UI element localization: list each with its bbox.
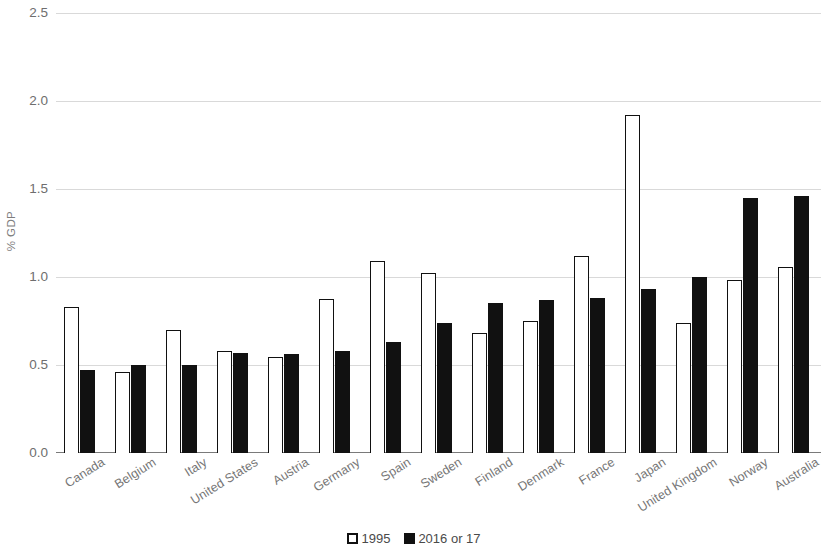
bar	[523, 321, 538, 453]
x-axis-label: Germany	[310, 455, 362, 494]
bar-group	[574, 13, 605, 453]
y-axis-tick-label: 1.5	[6, 182, 48, 196]
bar-group	[370, 13, 401, 453]
bar	[676, 323, 691, 453]
bar	[80, 370, 95, 453]
bar	[115, 372, 130, 453]
bar	[233, 353, 248, 453]
legend-label: 1995	[361, 531, 390, 546]
y-axis-tick-label: 2.5	[6, 6, 48, 20]
bar	[625, 115, 640, 453]
bar-group	[472, 13, 503, 453]
bar-group	[421, 13, 452, 453]
y-axis-title: % GDP	[0, 196, 22, 266]
bar	[421, 273, 436, 453]
bar-group	[268, 13, 299, 453]
y-axis-tick-label: 2.0	[6, 94, 48, 108]
bar	[743, 198, 758, 453]
bar	[794, 196, 809, 453]
chart-legend: 19952016 or 17	[0, 531, 828, 546]
bar-group	[778, 13, 809, 453]
bar-group	[676, 13, 707, 453]
x-axis-label: Spain	[378, 455, 413, 484]
x-axis-label: Canada	[62, 455, 107, 490]
x-axis-labels: CanadaBelgiumItalyUnited StatesAustriaGe…	[56, 455, 821, 525]
bar-group	[64, 13, 95, 453]
bar	[574, 256, 589, 453]
bar-group	[166, 13, 197, 453]
bar	[472, 333, 487, 453]
bar	[539, 300, 554, 453]
bar	[64, 307, 79, 453]
legend-item[interactable]: 1995	[347, 531, 390, 546]
bar-groups	[56, 13, 821, 453]
y-axis-title-text: % GDP	[5, 211, 17, 251]
plot-area: 0.00.51.01.52.02.5	[56, 13, 821, 453]
x-axis-label: Finland	[472, 455, 515, 489]
legend-label: 2016 or 17	[418, 531, 480, 546]
x-axis-label: Italy	[182, 455, 209, 479]
bar	[641, 289, 656, 453]
bar-group	[727, 13, 758, 453]
legend-swatch-icon	[347, 533, 358, 544]
x-axis-label: Australia	[771, 455, 820, 493]
bar	[166, 330, 181, 453]
bar	[437, 323, 452, 453]
bar	[335, 351, 350, 453]
legend-swatch-icon	[404, 533, 415, 544]
bar	[488, 303, 503, 453]
bar	[386, 342, 401, 453]
bar	[727, 280, 742, 453]
y-axis-tick-label: 0.0	[6, 446, 48, 460]
bar	[319, 299, 334, 453]
bar-group	[217, 13, 248, 453]
bar	[131, 365, 146, 453]
bar	[692, 277, 707, 453]
bar-group	[319, 13, 350, 453]
chart-container: % GDP 0.00.51.01.52.02.5 CanadaBelgiumIt…	[0, 0, 828, 555]
x-axis-label: France	[576, 455, 617, 488]
y-axis-tick-label: 0.5	[6, 358, 48, 372]
bar	[182, 365, 197, 453]
bar	[370, 261, 385, 453]
x-axis-label: Sweden	[418, 455, 464, 491]
bar-group	[625, 13, 656, 453]
bar	[217, 351, 232, 453]
bar	[284, 354, 299, 453]
x-axis-label: Norway	[726, 455, 770, 490]
bar	[778, 267, 793, 453]
bar	[268, 357, 283, 453]
x-axis-label: Belgium	[112, 455, 158, 491]
bar	[590, 298, 605, 453]
x-axis-label: Japan	[631, 455, 668, 485]
x-axis-label: Denmark	[515, 455, 566, 494]
x-axis-label: Austria	[270, 455, 311, 488]
bar-group	[523, 13, 554, 453]
y-axis-tick-label: 1.0	[6, 270, 48, 284]
legend-item[interactable]: 2016 or 17	[404, 531, 480, 546]
bar-group	[115, 13, 146, 453]
